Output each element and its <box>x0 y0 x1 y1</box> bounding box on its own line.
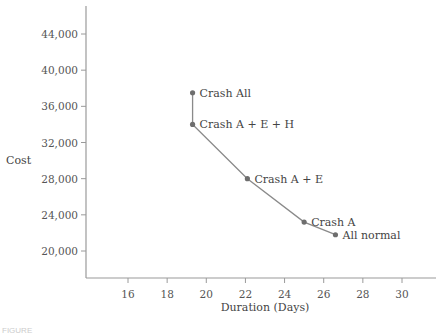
data-point <box>333 232 338 237</box>
point-label: All normal <box>341 229 400 242</box>
data-point <box>190 90 195 95</box>
y-tick-label: 44,000 <box>41 28 78 40</box>
point-label: Crash A + E <box>254 173 323 186</box>
x-tick-label: 24 <box>278 288 292 300</box>
y-tick-label: 20,000 <box>41 245 78 257</box>
y-tick-label: 40,000 <box>41 64 78 76</box>
data-point <box>190 122 195 127</box>
x-axis-label: Duration (Days) <box>221 301 310 314</box>
time-cost-chart: 20,00024,00028,00032,00036,00040,00044,0… <box>0 0 436 333</box>
x-tick-label: 28 <box>356 288 369 300</box>
y-tick-label: 24,000 <box>41 209 78 221</box>
y-axis-ticks: 20,00024,00028,00032,00036,00040,00044,0… <box>41 28 86 257</box>
x-tick-label: 16 <box>121 288 135 300</box>
x-tick-label: 30 <box>395 288 408 300</box>
x-tick-label: 22 <box>239 288 252 300</box>
y-tick-label: 32,000 <box>41 137 78 149</box>
data-point <box>245 176 250 181</box>
point-label: Crash A + E + H <box>200 118 294 131</box>
point-label: Crash A <box>311 216 356 229</box>
data-series: Crash AllCrash A + E + HCrash A + ECrash… <box>190 87 401 242</box>
data-point <box>302 219 307 224</box>
x-tick-label: 26 <box>317 288 331 300</box>
y-tick-label: 28,000 <box>41 173 78 185</box>
x-tick-label: 18 <box>160 288 173 300</box>
y-tick-label: 36,000 <box>41 100 78 112</box>
x-tick-label: 20 <box>200 288 213 300</box>
x-axis-ticks: 1618202224262830 <box>121 278 408 300</box>
figure-caption: FIGURE <box>2 326 32 333</box>
trade-off-line <box>193 93 336 235</box>
point-label: Crash All <box>200 87 252 100</box>
y-axis-label: Cost <box>6 154 32 167</box>
